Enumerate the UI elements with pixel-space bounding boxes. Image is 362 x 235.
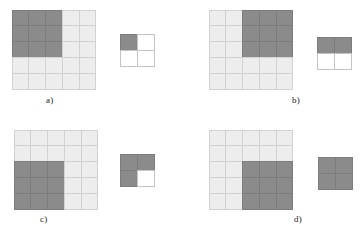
grid-cell	[120, 50, 138, 67]
grid-cell	[225, 161, 243, 178]
panel-c-label: c)	[40, 214, 47, 224]
grid-cell	[62, 10, 80, 27]
grid-cell	[209, 57, 227, 74]
panel-a-grids	[0, 0, 181, 95]
grid-cell	[28, 41, 46, 58]
grid-cell	[317, 53, 335, 70]
grid-cell	[14, 193, 32, 210]
grid-cell	[79, 10, 97, 27]
grid-cell	[28, 57, 46, 74]
grid-cell	[335, 173, 353, 190]
grid-cell	[81, 193, 99, 210]
grid-cell	[120, 154, 138, 171]
grid-cell	[276, 25, 294, 42]
grid-cell	[209, 193, 227, 210]
grid-cell	[225, 193, 243, 210]
grid-cell	[81, 177, 99, 194]
panel-a-label: a)	[46, 95, 53, 105]
grid-cell	[276, 57, 294, 74]
grid-cell	[45, 41, 63, 58]
grid-cell	[225, 10, 243, 27]
panel-b: b)	[181, 0, 362, 117]
grid-cell	[64, 145, 82, 162]
grid-cell	[276, 145, 294, 162]
grid-cell	[14, 130, 32, 147]
grid-cell	[64, 161, 82, 178]
grid-cell	[64, 193, 82, 210]
grid-cell	[30, 193, 48, 210]
grid-cell	[28, 10, 46, 27]
grid-cell	[259, 145, 277, 162]
grid-cell	[209, 177, 227, 194]
panel-a-grid-5x5	[12, 10, 96, 89]
grid-cell	[242, 145, 260, 162]
grid-cell	[259, 10, 277, 27]
grid-cell	[259, 73, 277, 90]
grid-cell	[225, 177, 243, 194]
grid-cell	[242, 130, 260, 147]
figure-container: a) b) c) d)	[0, 0, 362, 235]
grid-cell	[12, 41, 30, 58]
grid-cell	[64, 177, 82, 194]
panel-c-grid-2x2	[120, 154, 154, 186]
grid-cell	[209, 161, 227, 178]
grid-cell	[28, 73, 46, 90]
grid-cell	[259, 41, 277, 58]
grid-cell	[276, 130, 294, 147]
grid-cell	[242, 177, 260, 194]
panel-d-grid-2x2	[318, 157, 352, 189]
grid-cell	[137, 50, 155, 67]
grid-cell	[14, 145, 32, 162]
grid-cell	[209, 73, 227, 90]
panel-a: a)	[0, 0, 181, 117]
grid-cell	[12, 25, 30, 42]
grid-cell	[45, 25, 63, 42]
grid-cell	[28, 25, 46, 42]
grid-cell	[225, 25, 243, 42]
grid-cell	[276, 161, 294, 178]
panel-d-grids	[181, 118, 362, 213]
grid-cell	[276, 193, 294, 210]
grid-cell	[62, 41, 80, 58]
grid-cell	[14, 177, 32, 194]
grid-cell	[259, 161, 277, 178]
panel-b-grid-5x5	[209, 10, 293, 89]
grid-cell	[62, 73, 80, 90]
grid-cell	[242, 161, 260, 178]
grid-cell	[259, 177, 277, 194]
grid-cell	[137, 154, 155, 171]
panel-d-grid-5x5	[209, 130, 293, 209]
grid-cell	[45, 10, 63, 27]
grid-cell	[47, 145, 65, 162]
grid-cell	[276, 177, 294, 194]
grid-cell	[259, 57, 277, 74]
grid-cell	[120, 34, 138, 51]
grid-cell	[259, 130, 277, 147]
grid-cell	[225, 145, 243, 162]
panel-c: c)	[0, 118, 181, 235]
grid-cell	[47, 130, 65, 147]
grid-cell	[242, 193, 260, 210]
grid-cell	[12, 57, 30, 74]
grid-cell	[79, 25, 97, 42]
grid-cell	[276, 73, 294, 90]
grid-cell	[30, 145, 48, 162]
grid-cell	[137, 34, 155, 51]
grid-cell	[47, 177, 65, 194]
grid-cell	[209, 10, 227, 27]
panel-b-grid-2x2	[317, 37, 351, 69]
grid-cell	[209, 130, 227, 147]
grid-cell	[79, 57, 97, 74]
grid-cell	[79, 41, 97, 58]
grid-cell	[81, 145, 99, 162]
grid-cell	[335, 157, 353, 174]
panel-a-grid-2x2	[120, 34, 154, 66]
grid-cell	[14, 161, 32, 178]
grid-cell	[276, 41, 294, 58]
grid-cell	[62, 57, 80, 74]
grid-cell	[12, 10, 30, 27]
grid-cell	[242, 57, 260, 74]
grid-cell	[242, 73, 260, 90]
grid-cell	[45, 73, 63, 90]
panel-b-label: b)	[292, 95, 300, 105]
